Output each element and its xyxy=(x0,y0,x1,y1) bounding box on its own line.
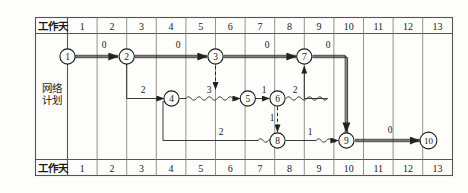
grid-vertical-lines xyxy=(97,18,423,176)
header-col-7: 7 xyxy=(257,21,262,32)
edge-label-1-2: 0 xyxy=(102,40,107,50)
edge-6-8-dashed: 1 xyxy=(270,107,278,132)
side-label: 网络 计划 xyxy=(42,82,63,106)
footer-col-12: 12 xyxy=(403,163,413,174)
edge-4-8: 2 xyxy=(163,101,279,142)
footer-col-10: 10 xyxy=(344,163,354,174)
header-col-6: 6 xyxy=(228,21,233,32)
edge-label-4-8: 2 xyxy=(219,127,224,137)
footer-row-label: 工作天 xyxy=(38,162,69,174)
footer-col-4: 4 xyxy=(169,163,174,174)
edge-label-6-7: 2 xyxy=(293,85,298,95)
header-row-label: 工作天 xyxy=(38,20,69,32)
edge-3-7: 0 xyxy=(224,40,297,58)
network-diagram-canvas: 工作天 1 2 3 4 5 6 7 8 9 10 11 12 13 工作天 1 … xyxy=(0,0,468,193)
header-row: 工作天 1 2 3 4 5 6 7 8 9 10 11 12 13 xyxy=(38,20,443,32)
header-col-5: 5 xyxy=(198,21,203,32)
node-6-label: 6 xyxy=(275,94,280,104)
footer-col-6: 6 xyxy=(228,163,233,174)
node-1: 1 xyxy=(60,49,75,64)
node-6: 6 xyxy=(270,91,285,106)
node-1-label: 1 xyxy=(65,52,70,62)
node-2: 2 xyxy=(119,49,134,64)
node-10: 10 xyxy=(420,132,437,149)
edge-label-6-8: 1 xyxy=(270,113,275,123)
edge-label-7-9: 0 xyxy=(326,40,331,50)
header-col-9: 9 xyxy=(317,21,322,32)
node-10-label: 10 xyxy=(424,136,434,146)
header-col-4: 4 xyxy=(169,21,174,32)
header-col-3: 3 xyxy=(139,21,144,32)
footer-col-5: 5 xyxy=(198,163,203,174)
footer-col-3: 3 xyxy=(139,163,144,174)
footer-row: 工作天 1 2 3 4 5 6 7 8 9 10 11 12 13 xyxy=(38,162,443,174)
edge-4-5: 3 xyxy=(180,85,240,100)
footer-col-8: 8 xyxy=(287,163,292,174)
edge-2-3: 0 xyxy=(135,40,208,58)
edge-label-9-10: 0 xyxy=(388,125,393,135)
header-col-13: 13 xyxy=(433,21,443,32)
edge-label-2-3: 0 xyxy=(176,40,181,50)
footer-col-1: 1 xyxy=(80,163,85,174)
footer-col-11: 11 xyxy=(373,163,383,174)
header-col-10: 10 xyxy=(344,21,354,32)
node-5: 5 xyxy=(240,91,255,106)
node-5-label: 5 xyxy=(245,94,250,104)
node-7-label: 7 xyxy=(302,52,307,62)
edge-5-6: 1 xyxy=(256,85,270,99)
footer-col-9: 9 xyxy=(317,163,322,174)
edge-7-9: 0 xyxy=(313,40,348,133)
network-diagram-figure: 工作天 1 2 3 4 5 6 7 8 9 10 11 12 13 工作天 1 … xyxy=(0,0,468,193)
edge-label-4-5: 3 xyxy=(207,85,212,95)
node-9: 9 xyxy=(339,133,354,148)
node-8-label: 8 xyxy=(275,136,280,146)
header-col-2: 2 xyxy=(109,21,114,32)
edge-label-8-9: 1 xyxy=(308,127,313,137)
side-label-line-1: 网络 xyxy=(42,82,63,94)
edge-6-7: 2 xyxy=(286,66,328,100)
node-7: 7 xyxy=(297,49,312,64)
edge-2-4: 2 xyxy=(127,59,164,99)
header-col-1: 1 xyxy=(80,21,85,32)
footer-col-7: 7 xyxy=(257,163,262,174)
node-2-label: 2 xyxy=(124,52,129,62)
edge-8-9: 1 xyxy=(286,127,338,142)
node-4: 4 xyxy=(164,91,179,106)
side-label-line-2: 计划 xyxy=(42,94,62,106)
node-8: 8 xyxy=(270,133,285,148)
header-col-8: 8 xyxy=(287,21,292,32)
edge-label-5-6: 1 xyxy=(262,85,267,95)
header-col-11: 11 xyxy=(373,21,383,32)
edge-label-2-4: 2 xyxy=(141,85,146,95)
header-col-12: 12 xyxy=(403,21,413,32)
edge-label-3-7: 0 xyxy=(265,40,270,50)
node-9-label: 9 xyxy=(344,136,349,146)
edge-9-10: 0 xyxy=(355,125,420,142)
footer-col-13: 13 xyxy=(433,163,443,174)
node-3-label: 3 xyxy=(213,52,218,62)
node-4-label: 4 xyxy=(169,94,174,104)
node-3: 3 xyxy=(208,49,223,64)
footer-col-2: 2 xyxy=(109,163,114,174)
